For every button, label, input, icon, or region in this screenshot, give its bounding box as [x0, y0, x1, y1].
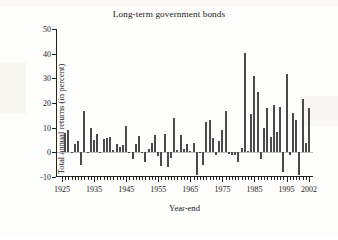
x-tick-minor — [142, 177, 143, 180]
x-tick-minor — [145, 177, 146, 180]
x-tick-minor — [229, 177, 230, 180]
zero-baseline — [56, 152, 313, 153]
x-tick-minor — [133, 177, 134, 180]
bar — [241, 148, 243, 153]
bar — [273, 105, 275, 153]
y-tick-label: 10 — [43, 123, 51, 132]
x-tick-minor — [84, 177, 85, 180]
x-tick-minor — [210, 177, 211, 180]
bar — [144, 152, 146, 162]
plot-area: 50403020100-10 1925193519451955196519751… — [56, 29, 313, 177]
x-tick-major — [254, 177, 255, 182]
x-tick-label: 1995 — [279, 185, 295, 194]
y-tick-mark — [52, 177, 56, 178]
y-tick-label: 0 — [47, 148, 51, 157]
bar — [138, 136, 140, 152]
x-tick-minor — [139, 177, 140, 180]
bar — [128, 152, 130, 153]
x-tick-minor — [251, 177, 252, 180]
x-tick-minor — [271, 177, 272, 180]
x-tick-minor — [78, 177, 79, 180]
bar — [186, 144, 188, 153]
x-tick-minor — [248, 177, 249, 180]
x-tick-minor — [242, 177, 243, 180]
bar — [164, 134, 166, 153]
bar — [90, 128, 92, 153]
x-axis-title: Year-end — [56, 203, 313, 213]
bar — [225, 111, 227, 152]
bar — [298, 152, 300, 174]
y-tick-label: -10 — [40, 173, 51, 182]
x-tick-major — [62, 177, 63, 182]
x-tick-major — [126, 177, 127, 182]
bar — [205, 122, 207, 152]
x-tick-major — [287, 177, 288, 182]
bar — [151, 143, 153, 152]
x-tick-minor — [280, 177, 281, 180]
x-tick-minor — [226, 177, 227, 180]
x-tick-label: 1985 — [246, 185, 262, 194]
x-tick-minor — [88, 177, 89, 180]
x-tick-minor — [293, 177, 294, 180]
bar — [112, 150, 114, 152]
bar — [154, 135, 156, 153]
x-tick-label: 1955 — [150, 185, 166, 194]
bar — [202, 152, 204, 165]
y-tick-mark — [52, 78, 56, 79]
x-tick-minor — [181, 177, 182, 180]
bar — [160, 152, 162, 166]
x-tick-minor — [152, 177, 153, 180]
bar — [257, 92, 259, 152]
x-tick-minor — [184, 177, 185, 180]
x-tick-minor — [206, 177, 207, 180]
x-tick-minor — [283, 177, 284, 180]
bar — [157, 152, 159, 155]
x-tick-minor — [168, 177, 169, 180]
x-tick-minor — [261, 177, 262, 180]
x-tick-minor — [91, 177, 92, 180]
bar — [109, 137, 111, 152]
bar — [266, 108, 268, 153]
bar — [183, 149, 185, 152]
x-tick-minor — [107, 177, 108, 180]
x-tick-minor — [299, 177, 300, 180]
x-tick-minor — [245, 177, 246, 180]
x-tick-minor — [65, 177, 66, 180]
x-tick-minor — [197, 177, 198, 180]
x-tick-minor — [216, 177, 217, 180]
x-tick-minor — [81, 177, 82, 180]
bar — [196, 152, 198, 175]
bar — [116, 144, 118, 152]
bar — [74, 144, 76, 152]
bar — [189, 151, 191, 153]
x-tick-minor — [100, 177, 101, 180]
y-tick-label: 30 — [43, 74, 51, 83]
bar — [305, 143, 307, 152]
bar — [170, 152, 172, 158]
x-tick-minor — [187, 177, 188, 180]
x-tick-minor — [200, 177, 201, 180]
x-tick-minor — [117, 177, 118, 180]
y-tick-mark — [52, 29, 56, 30]
bar — [103, 139, 105, 153]
x-tick-minor — [110, 177, 111, 180]
x-tick-minor — [97, 177, 98, 180]
y-axis-line — [56, 29, 57, 177]
x-tick-minor — [219, 177, 220, 180]
bar — [247, 151, 249, 153]
x-tick-label: 1945 — [118, 185, 134, 194]
x-tick-label: 1935 — [86, 185, 102, 194]
x-tick-major — [94, 177, 95, 182]
bar — [221, 130, 223, 153]
bar — [282, 152, 284, 171]
x-tick-minor — [267, 177, 268, 180]
bar — [199, 152, 201, 153]
bar — [215, 152, 217, 155]
x-tick-minor — [238, 177, 239, 180]
bar — [234, 152, 236, 155]
x-tick-minor — [104, 177, 105, 180]
bar — [308, 108, 310, 152]
x-tick-minor — [296, 177, 297, 180]
bar — [106, 138, 108, 153]
y-tick-mark — [52, 54, 56, 55]
